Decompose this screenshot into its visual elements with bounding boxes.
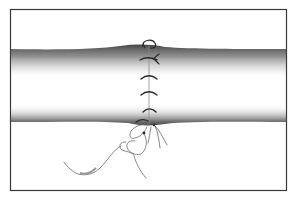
suture-illustration (0, 0, 295, 200)
knot-bottom-right (153, 124, 155, 126)
tube-upper-shadow (11, 45, 286, 78)
knot-bottom (143, 132, 146, 135)
illustration-canvas (0, 0, 295, 200)
figure-frame (11, 10, 287, 191)
